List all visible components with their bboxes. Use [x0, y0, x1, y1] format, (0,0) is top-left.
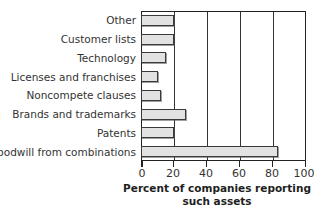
x-axis-tick-labels: 0 20 40 60 80 100	[141, 167, 306, 181]
bar-row	[141, 11, 306, 30]
bar-other	[141, 15, 174, 26]
bar-row	[141, 30, 306, 49]
bar-goodwill-from-combinations	[141, 146, 278, 157]
bar-customer-lists	[141, 34, 174, 45]
bar-noncompete-clauses	[141, 90, 161, 101]
bar-row	[141, 105, 306, 124]
x-tick-label-0: 0	[139, 167, 146, 180]
x-tick-label-60: 60	[232, 167, 246, 180]
category-label-technology: Technology	[0, 49, 139, 68]
bar-row	[141, 49, 306, 68]
bar-brands-and-trademarks	[141, 109, 186, 120]
bar-row	[141, 86, 306, 105]
chart-title-clipped	[0, 0, 314, 3]
x-tick-label-40: 40	[199, 167, 213, 180]
x-axis-caption-line2: such assets	[120, 195, 314, 208]
category-label-noncompete-clauses: Noncompete clauses	[0, 86, 139, 105]
category-label-goodwill-from-combinations: Goodwill from combinations	[0, 142, 139, 161]
bar-chart: Other Customer lists Technology Licenses…	[0, 0, 314, 208]
category-label-patents: Patents	[0, 124, 139, 143]
category-label-brands-and-trademarks: Brands and trademarks	[0, 105, 139, 124]
bar-patents	[141, 127, 174, 138]
category-label-customer-lists: Customer lists	[0, 30, 139, 49]
bar-technology	[141, 52, 166, 63]
x-tick-label-100: 100	[294, 167, 315, 180]
x-axis-caption-line1: Percent of companies reporting	[120, 182, 314, 195]
x-tick-label-20: 20	[166, 167, 180, 180]
bar-row	[141, 142, 306, 161]
category-label-other: Other	[0, 11, 139, 30]
bar-licenses-and-franchises	[141, 71, 158, 82]
category-axis: Other Customer lists Technology Licenses…	[0, 11, 139, 161]
bar-series	[141, 11, 306, 161]
x-tick-label-80: 80	[265, 167, 279, 180]
x-axis-caption: Percent of companies reporting such asse…	[120, 182, 314, 208]
bar-row	[141, 124, 306, 143]
bar-row	[141, 67, 306, 86]
category-label-licenses-and-franchises: Licenses and franchises	[0, 67, 139, 86]
